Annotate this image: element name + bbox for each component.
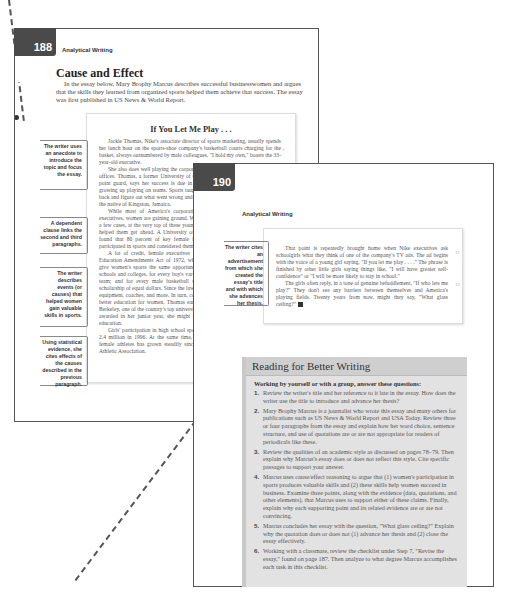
question-item: 1.Review the writer's title and her refe… xyxy=(254,389,457,405)
annotation-statistics: Using statistical evidence, she cites ef… xyxy=(40,336,88,386)
question-item: 5.Marcus concludes her essay with the qu… xyxy=(254,522,457,545)
question-text: Review the writer's title and her refere… xyxy=(263,389,455,404)
page-188-bottom-edge xyxy=(14,421,195,422)
question-text: Mary Brophy Marcus is a journalist who w… xyxy=(263,407,456,445)
essay-paragraph: Jackie Thomas, Nike's associate director… xyxy=(99,138,281,166)
question-text: Working with a classmate, review the che… xyxy=(263,547,457,570)
page-188-right-edge xyxy=(318,28,319,163)
question-item: 4.Marcus uses cause/effect reasoning to … xyxy=(254,473,457,520)
annotation-anecdote: The writer uses an anecdote to introduce… xyxy=(40,140,88,190)
question-number: 3. xyxy=(254,448,259,456)
annotation-advertisement: The writer cites an advertisement from w… xyxy=(224,241,269,306)
question-item: 3.Review the qualities of an academic st… xyxy=(254,448,457,471)
question-text: Marcus uses cause/effect reasoning to ar… xyxy=(263,473,456,519)
intro-paragraph: In the essay below, Mary Brophy Marcus d… xyxy=(56,80,306,104)
question-number: 2. xyxy=(254,407,259,415)
question-number: 5. xyxy=(254,522,259,530)
question-item: 6.Working with a classmate, review the c… xyxy=(254,547,457,570)
running-head-190: Analytical Writing xyxy=(242,211,293,217)
question-text: Marcus concludes her essay with the ques… xyxy=(263,522,454,545)
margin-number: 11 xyxy=(455,250,460,255)
margin-number: 12 xyxy=(455,282,460,287)
annotation-dependent-clause: A dependent clause links the second and … xyxy=(40,217,88,254)
question-list: 1.Review the writer's title and her refe… xyxy=(246,389,467,571)
question-item: 2.Mary Brophy Marcus is a journalist who… xyxy=(254,407,457,446)
essay-title: If You Let Me Play . . . xyxy=(87,124,295,134)
dashed-connector-bottom xyxy=(75,420,197,581)
question-number: 6. xyxy=(254,547,259,555)
reading-box-subtitle: Working by yourself or with a group, ans… xyxy=(246,376,467,389)
essay-paragraph: That point is repeatedly brought home wh… xyxy=(276,245,448,280)
running-head: Analytical Writing xyxy=(62,47,113,53)
essay-paragraph: The girls often reply, in a tone of genu… xyxy=(276,280,448,308)
essay-continuation-card: That point is repeatedly brought home wh… xyxy=(263,228,463,324)
question-number: 1. xyxy=(254,389,259,397)
essay-continuation-body: That point is repeatedly brought home wh… xyxy=(264,229,462,308)
reading-box-title: Reading for Better Writing xyxy=(246,357,467,376)
reading-for-better-writing-box: Reading for Better Writing Working by yo… xyxy=(242,357,467,587)
end-mark-icon xyxy=(298,302,303,307)
question-number: 4. xyxy=(254,473,259,481)
annotation-causes: The writer describes events (or causes) … xyxy=(40,267,88,327)
question-text: Review the qualities of an academic styl… xyxy=(263,448,454,471)
page-number-badge: 188 xyxy=(14,28,56,56)
section-title: Cause and Effect xyxy=(56,66,143,81)
page-number-badge-190: 190 xyxy=(193,163,235,191)
margin-number: 1 xyxy=(282,147,285,152)
